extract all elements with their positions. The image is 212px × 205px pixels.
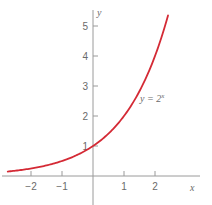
x-tick-label: 1: [121, 181, 127, 192]
annotation-exponent: x: [160, 92, 165, 100]
x-axis-label: x: [189, 182, 195, 193]
x-tick-label: −1: [56, 181, 68, 192]
y-axis-label: y: [96, 7, 102, 18]
y-ticks: 12345: [82, 21, 98, 152]
y-tick-label: 5: [82, 21, 88, 32]
y-tick-label: 4: [82, 51, 88, 62]
x-tick-label: −2: [25, 181, 37, 192]
x-tick-label: 2: [152, 181, 158, 192]
annotation-base: y = 2: [139, 93, 161, 104]
exponential-chart: −2−112 12345 x y y = 2x: [0, 0, 212, 205]
y-tick-label: 2: [82, 111, 88, 122]
curve-annotation: y = 2x: [139, 92, 165, 104]
x-ticks: −2−112: [25, 171, 158, 192]
y-tick-label: 3: [82, 81, 88, 92]
